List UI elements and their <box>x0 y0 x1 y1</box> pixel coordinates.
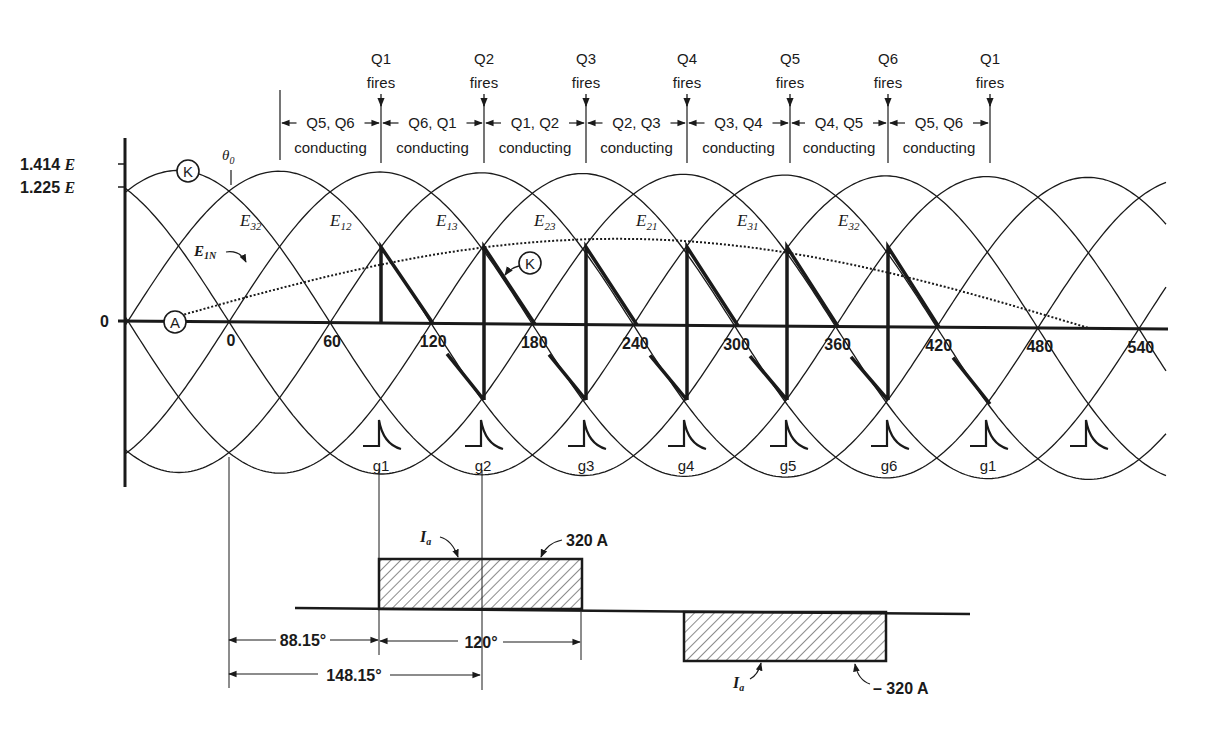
y-label-zero: 0 <box>100 313 109 330</box>
svg-text:A: A <box>170 314 180 331</box>
x-tick-420: 420 <box>925 337 952 354</box>
firing-q2-1: Q2fires <box>470 50 498 163</box>
current-value-positive: 320 A <box>541 532 609 557</box>
svg-text:Ia: Ia <box>732 674 744 693</box>
x-tick-360: 360 <box>824 336 851 353</box>
current-label-bottom: Ia <box>732 663 761 693</box>
svg-text:conducting: conducting <box>499 139 572 156</box>
svg-text:fires: fires <box>673 74 701 91</box>
conducting-interval-5: Q4, Q5conducting <box>792 114 886 156</box>
marker-k-top: K <box>177 160 199 182</box>
svg-text:Q2, Q3: Q2, Q3 <box>612 114 660 131</box>
firing-q6-5: Q6fires <box>874 50 902 163</box>
conducting-interval-4: Q3, Q4conducting <box>689 114 788 156</box>
svg-text:conducting: conducting <box>396 139 469 156</box>
svg-text:Q5, Q6: Q5, Q6 <box>915 114 963 131</box>
dimension-total: 148.15° <box>229 667 480 684</box>
y-label-1414: 1.414 E <box>20 156 75 173</box>
x-tick-480: 480 <box>1026 338 1053 355</box>
theta0-label: θ0 <box>222 147 234 166</box>
marker-k-waveform: K <box>505 252 541 275</box>
svg-text:K: K <box>525 255 535 272</box>
x-tick-540: 540 <box>1128 339 1155 356</box>
gate-pulses: g1g2g3g4g5g6g1 <box>363 420 1108 474</box>
svg-text:conducting: conducting <box>803 139 876 156</box>
x-tick-60: 60 <box>323 333 341 350</box>
svg-text:Ia: Ia <box>419 528 431 547</box>
svg-text:K: K <box>183 163 193 180</box>
voltage-label-e12: E12 <box>329 211 352 232</box>
svg-text:fires: fires <box>572 74 600 91</box>
firing-q5-4: Q5fires <box>776 50 804 163</box>
line-voltage-labels: E32E12E13E23E21E31E32 <box>239 211 860 232</box>
svg-text:Q6, Q1: Q6, Q1 <box>408 114 456 131</box>
svg-text:fires: fires <box>776 74 804 91</box>
svg-text:148.15°: 148.15° <box>326 667 381 684</box>
x-tick-120: 120 <box>420 333 447 350</box>
current-positive-pulse <box>379 559 582 609</box>
gate-pulse-g3-2: g3 <box>568 420 606 474</box>
current-value-negative: – 320 A <box>855 664 929 697</box>
x-tick-180: 180 <box>521 334 548 351</box>
svg-text:Q3: Q3 <box>576 50 596 67</box>
dimension-width: 120° <box>380 634 580 651</box>
svg-text:g1: g1 <box>980 457 997 474</box>
current-label-top: Ia <box>419 528 458 557</box>
current-negative-pulse <box>684 612 886 661</box>
x-tick-300: 300 <box>723 336 750 353</box>
firing-q1-0: Q1fires <box>367 50 395 163</box>
svg-text:88.15°: 88.15° <box>280 632 326 649</box>
conducting-interval-3: Q2, Q3conducting <box>588 114 685 156</box>
y-label-1225: 1.225 E <box>20 179 75 196</box>
x-tick-0: 0 <box>227 332 236 349</box>
svg-text:conducting: conducting <box>294 139 367 156</box>
svg-text:Q4: Q4 <box>677 50 697 67</box>
gate-pulse-g1-0: g1 <box>363 420 401 474</box>
svg-text:120°: 120° <box>464 634 497 651</box>
svg-text:conducting: conducting <box>903 139 976 156</box>
gate-pulse-g2-1: g2 <box>465 420 503 474</box>
conducting-interval-6: Q5, Q6conducting <box>890 114 988 156</box>
svg-text:fires: fires <box>367 74 395 91</box>
svg-text:Q1: Q1 <box>371 50 391 67</box>
gate-pulse-g6-5: g6 <box>871 420 909 474</box>
conducting-interval-2: Q1, Q2conducting <box>486 114 584 156</box>
svg-text:320 A: 320 A <box>566 532 609 549</box>
voltage-label-e23: E23 <box>533 211 556 232</box>
firing-q3-2: Q3fires <box>572 50 600 163</box>
svg-text:g1: g1 <box>373 457 390 474</box>
dimension-delay: 88.15° <box>229 632 378 649</box>
marker-a: A <box>164 311 186 333</box>
svg-text:Q2: Q2 <box>474 50 494 67</box>
gate-pulse-g1-6: g1 <box>970 420 1008 474</box>
svg-text:Q1, Q2: Q1, Q2 <box>511 114 559 131</box>
svg-text:Q6: Q6 <box>878 50 898 67</box>
gate-pulse-unlabeled-7 <box>1070 420 1108 449</box>
svg-text:g2: g2 <box>475 457 492 474</box>
voltage-label-e32: E32 <box>837 211 860 232</box>
svg-text:Q1: Q1 <box>980 50 1000 67</box>
svg-text:conducting: conducting <box>702 139 775 156</box>
svg-text:fires: fires <box>976 74 1004 91</box>
horizontal-axis <box>118 321 1168 329</box>
x-tick-240: 240 <box>622 335 649 352</box>
svg-text:Q4, Q5: Q4, Q5 <box>815 114 863 131</box>
svg-text:Q3, Q4: Q3, Q4 <box>714 114 762 131</box>
conducting-interval-0: Q5, Q6conducting <box>282 114 379 156</box>
svg-text:E1N: E1N <box>193 243 217 261</box>
svg-text:fires: fires <box>874 74 902 91</box>
thyristor-waveform-diagram: 1.414 E 1.225 E 0 0601201802403003604204… <box>0 0 1217 733</box>
svg-text:g6: g6 <box>881 457 898 474</box>
svg-text:fires: fires <box>470 74 498 91</box>
x-axis-tick-labels: 060120180240300360420480540 <box>227 332 1155 356</box>
svg-text:– 320 A: – 320 A <box>873 680 929 697</box>
conducting-interval-1: Q6, Q1conducting <box>383 114 482 156</box>
svg-text:conducting: conducting <box>600 139 673 156</box>
e1n-label: E1N <box>193 243 246 262</box>
voltage-label-e32: E32 <box>239 211 262 232</box>
firing-sequence: Q1firesQ2firesQ3firesQ4firesQ5firesQ6fir… <box>280 50 1004 163</box>
svg-text:g3: g3 <box>578 457 595 474</box>
svg-text:Q5: Q5 <box>780 50 800 67</box>
svg-text:g4: g4 <box>678 457 695 474</box>
firing-q1-6: Q1fires <box>976 50 1004 163</box>
